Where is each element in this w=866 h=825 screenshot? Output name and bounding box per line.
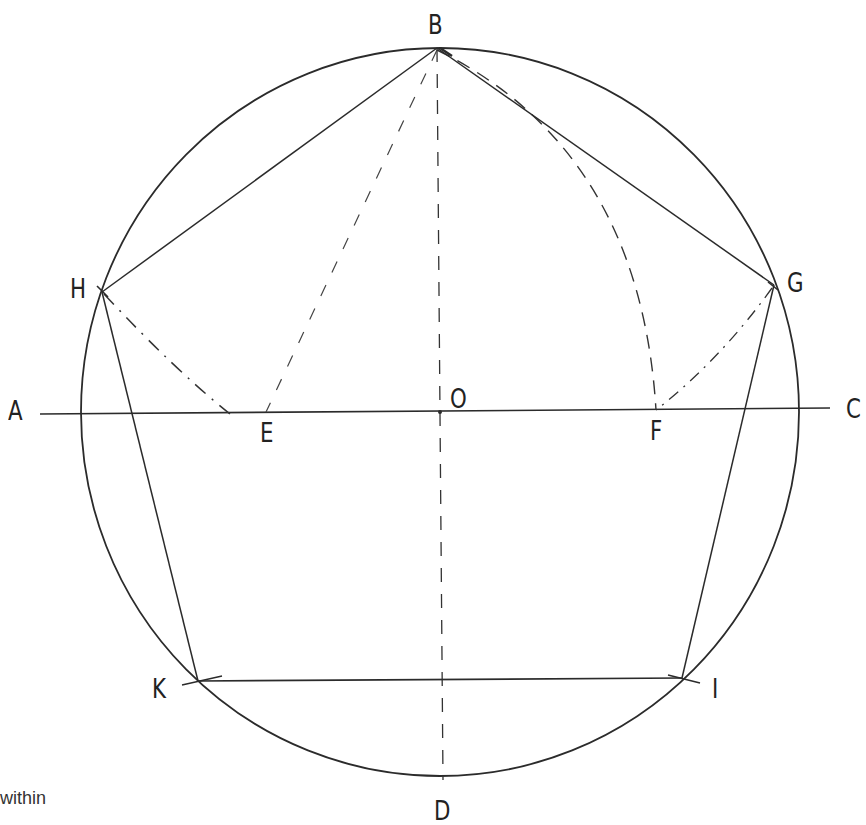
label-i: I [712,676,718,702]
label-f: F [650,418,662,444]
pentagon-side-bg [437,48,774,285]
pentagon-side-hk [102,292,198,681]
pentagon-side-gi [682,285,774,678]
label-k: K [152,676,166,702]
label-d: D [434,798,450,824]
pentagon-construction-diagram [0,0,866,825]
caption-text: within [0,788,46,809]
arc-g-to-f [656,288,772,410]
arc-h-to-e [104,294,230,414]
label-o: O [450,386,467,412]
label-e: E [260,420,273,446]
label-c: C [846,396,861,422]
label-h: H [70,276,86,302]
arc-b-to-f [437,50,656,410]
label-b: B [428,12,443,38]
pentagon-side-ki [198,678,682,681]
center-point-o [438,410,442,414]
pentagon-side-bh [102,48,437,292]
label-g: G [787,270,804,296]
tick-i [668,675,700,683]
horizontal-line-ac [40,408,830,414]
dashed-line-be [266,50,437,412]
label-a: A [8,398,23,424]
